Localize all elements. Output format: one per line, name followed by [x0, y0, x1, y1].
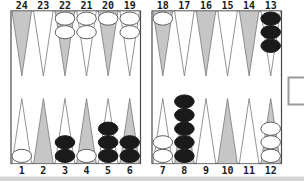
- point-number-label-16: 16: [200, 0, 212, 11]
- point-9[interactable]: [196, 99, 216, 164]
- point-17[interactable]: [175, 11, 195, 76]
- point-15[interactable]: [218, 11, 238, 76]
- point-number-label-11: 11: [243, 165, 255, 176]
- point-number-label-7: 7: [160, 165, 166, 176]
- point-number-label-21: 21: [81, 0, 93, 11]
- point-24[interactable]: [12, 11, 32, 76]
- checker-white-point-21[interactable]: [77, 26, 97, 39]
- point-number-label-18: 18: [157, 0, 169, 11]
- point-number-label-5: 5: [105, 165, 111, 176]
- checker-white-point-7[interactable]: [153, 136, 173, 149]
- point-number-label-22: 22: [59, 0, 71, 11]
- checker-black-point-8[interactable]: [175, 109, 195, 122]
- checker-white-point-12[interactable]: [261, 122, 281, 135]
- point-number-label-3: 3: [62, 165, 68, 176]
- checker-white-point-19[interactable]: [120, 26, 140, 39]
- checker-white-point-18[interactable]: [153, 12, 173, 25]
- point-14[interactable]: [239, 11, 259, 76]
- point-23[interactable]: [34, 11, 54, 76]
- point-number-label-23: 23: [37, 0, 49, 11]
- checker-black-point-3[interactable]: [55, 136, 75, 149]
- checker-white-point-19[interactable]: [120, 12, 140, 25]
- point-number-label-12: 12: [265, 165, 277, 176]
- checker-black-point-5[interactable]: [98, 122, 118, 135]
- point-number-label-1: 1: [19, 165, 25, 176]
- checker-black-point-8[interactable]: [175, 95, 195, 108]
- checker-black-point-3[interactable]: [55, 149, 75, 162]
- point-number-label-10: 10: [222, 165, 234, 176]
- checker-white-point-22[interactable]: [55, 26, 75, 39]
- point-number-label-13: 13: [265, 0, 277, 11]
- point-number-label-6: 6: [127, 165, 133, 176]
- checker-white-point-12[interactable]: [261, 149, 281, 162]
- point-11[interactable]: [239, 99, 259, 164]
- checker-black-point-6[interactable]: [120, 136, 140, 149]
- checker-white-point-12[interactable]: [261, 136, 281, 149]
- backgammon-board-figure: 242322212019181716151413123456789101112: [0, 0, 304, 181]
- checker-black-point-6[interactable]: [120, 149, 140, 162]
- checker-black-point-8[interactable]: [175, 122, 195, 135]
- point-number-label-19: 19: [124, 0, 136, 11]
- checker-black-point-8[interactable]: [175, 136, 195, 149]
- page-edge-shadow: [0, 177, 304, 182]
- point-10[interactable]: [218, 99, 238, 164]
- point-number-label-15: 15: [222, 0, 234, 11]
- point-number-label-24: 24: [16, 0, 28, 11]
- point-number-label-4: 4: [84, 165, 90, 176]
- checker-black-point-13[interactable]: [261, 26, 281, 39]
- point-2[interactable]: [34, 99, 54, 164]
- checker-white-point-21[interactable]: [77, 12, 97, 25]
- checker-white-point-7[interactable]: [153, 149, 173, 162]
- point-number-label-2: 2: [40, 165, 46, 176]
- side-tray-box[interactable]: [289, 78, 305, 105]
- checker-black-point-13[interactable]: [261, 39, 281, 52]
- point-number-label-14: 14: [243, 0, 255, 11]
- checker-black-point-5[interactable]: [98, 136, 118, 149]
- point-number-label-17: 17: [178, 0, 190, 11]
- backgammon-board: 242322212019181716151413123456789101112: [0, 0, 304, 181]
- point-16[interactable]: [196, 11, 216, 76]
- checker-white-point-22[interactable]: [55, 12, 75, 25]
- point-number-label-20: 20: [102, 0, 114, 11]
- point-number-label-9: 9: [203, 165, 209, 176]
- checker-black-point-8[interactable]: [175, 149, 195, 162]
- checker-black-point-13[interactable]: [261, 12, 281, 25]
- checker-white-point-4[interactable]: [77, 149, 97, 162]
- checker-black-point-5[interactable]: [98, 149, 118, 162]
- point-number-label-8: 8: [181, 165, 187, 176]
- checker-white-point-1[interactable]: [12, 149, 32, 162]
- checker-white-point-20[interactable]: [98, 12, 118, 25]
